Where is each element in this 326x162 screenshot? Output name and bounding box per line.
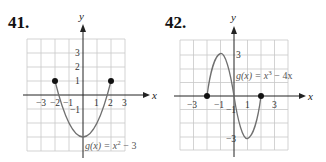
endpoint-dot — [258, 93, 264, 99]
svg-text:−1: −1 — [226, 105, 236, 115]
x-axis-label: x — [151, 89, 157, 101]
svg-text:2: 2 — [75, 62, 80, 72]
svg-text:1: 1 — [245, 100, 250, 110]
y-axis-arrow-icon — [80, 24, 86, 32]
x-axis-label: x — [307, 90, 313, 102]
svg-text:3: 3 — [236, 50, 241, 60]
graph-41: x y −3 −2 −1 1 2 3 3 2 1 −1 g(x) = x2 − … — [0, 0, 163, 162]
y-axis-arrow-icon — [231, 26, 237, 34]
svg-text:−1: −1 — [214, 100, 224, 110]
svg-text:3: 3 — [272, 100, 277, 110]
x-axis-arrow-icon — [143, 92, 150, 98]
problem-41: 41. x y −3 −2 −1 1 2 3 3 2 1 −1 — [0, 0, 163, 162]
endpoint-dot — [204, 93, 210, 99]
svg-text:−3: −3 — [187, 100, 197, 110]
svg-text:1: 1 — [75, 76, 80, 86]
problem-42: 42. x y −3 −1 1 3 3 −1 −3 — [163, 0, 326, 162]
svg-text:−3: −3 — [36, 98, 46, 108]
graph-42: x y −3 −1 1 3 3 −1 −3 g(x) = x3 − 4x — [163, 0, 326, 162]
svg-text:−2: −2 — [50, 98, 60, 108]
function-label: g(x) = x2 − 3 — [85, 139, 136, 152]
svg-text:3: 3 — [122, 98, 127, 108]
endpoint-dot — [108, 78, 114, 84]
svg-text:1: 1 — [94, 98, 99, 108]
svg-text:3: 3 — [75, 48, 80, 58]
svg-text:−1: −1 — [70, 105, 80, 115]
y-axis-label: y — [230, 11, 236, 23]
function-label: g(x) = x3 − 4x — [236, 69, 292, 82]
y-axis-label: y — [78, 10, 84, 22]
svg-text:−3: −3 — [226, 134, 236, 144]
x-axis-arrow-icon — [299, 93, 306, 99]
svg-text:2: 2 — [108, 98, 113, 108]
endpoint-dot — [52, 78, 58, 84]
